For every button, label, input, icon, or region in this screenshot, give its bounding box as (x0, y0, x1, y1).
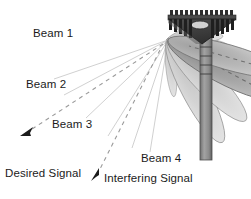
array-center-oval (191, 21, 209, 29)
desired-signal-direction-label: Desired Signal Direction (5, 141, 81, 199)
desired-signal-line-1: Desired Signal (5, 167, 81, 180)
beam-4-label: Beam 4 (141, 152, 181, 165)
antenna-beamforming-diagram: Beam 1 Beam 2 Beam 3 Beam 4 Desired Sign… (0, 0, 251, 199)
interfering-signal-arrowhead (91, 168, 99, 181)
mast-shaft (200, 36, 212, 160)
interfering-signal-label: Interfering Signal (104, 172, 193, 185)
desired-signal-arrowhead (20, 127, 33, 136)
radiating-rays (54, 40, 168, 152)
beam-1-label: Beam 1 (33, 27, 73, 40)
beam-2-label: Beam 2 (26, 78, 66, 91)
beam-3-label: Beam 3 (52, 118, 92, 131)
antenna-mast (200, 36, 212, 160)
